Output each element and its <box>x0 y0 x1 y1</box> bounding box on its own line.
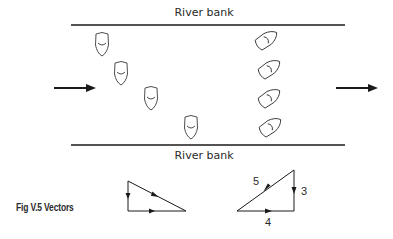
boat-icon <box>258 114 285 138</box>
boat-icon <box>257 56 284 80</box>
triangle-right <box>237 170 297 214</box>
triangle-left <box>126 181 187 214</box>
arrow-down-icon <box>126 193 131 199</box>
boat-icon <box>96 33 109 57</box>
arrow-right-icon <box>265 209 272 214</box>
vertical-label-3: 3 <box>301 185 307 197</box>
figure-caption: Fig V.5 Vectors <box>16 202 74 213</box>
boat-icon <box>254 27 281 51</box>
arrow-down-right-icon <box>151 192 159 198</box>
vectors-figure: River bank River bank 5 3 4 Fig V.5 Vect… <box>0 0 393 239</box>
arrow-down-icon <box>292 187 297 194</box>
boat-icon <box>257 85 284 109</box>
current-arrow-right <box>336 84 378 92</box>
boats-straight-heading <box>96 33 198 140</box>
horizontal-label-4: 4 <box>265 216 271 228</box>
arrow-right-icon <box>149 209 155 214</box>
boat-icon <box>115 62 128 86</box>
current-arrow-left <box>54 84 96 92</box>
boats-angled-heading <box>254 27 285 138</box>
boat-icon <box>145 87 158 111</box>
hypotenuse-label-5: 5 <box>253 175 259 187</box>
boat-icon <box>185 116 198 140</box>
top-bank-label: River bank <box>174 6 233 19</box>
bottom-bank-label: River bank <box>174 149 233 162</box>
